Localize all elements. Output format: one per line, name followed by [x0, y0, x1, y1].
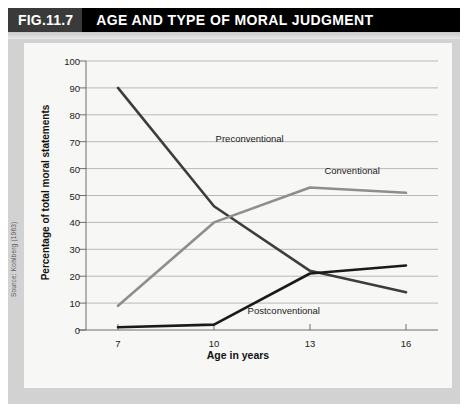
x-tick-label: 13: [290, 338, 330, 349]
figure-number-badge: FIG.11.7: [8, 8, 82, 32]
x-tick-label: 7: [98, 338, 138, 349]
line-chart: Percentage of total moral statements 010…: [24, 43, 452, 388]
header-shadow-divider: [8, 32, 460, 39]
x-axis-title: Age in years: [24, 349, 452, 361]
x-axis-tick-labels: 7101316: [24, 43, 452, 388]
series-label-conventional: Conventional: [324, 165, 379, 176]
chart-panel: Percentage of total moral statements 010…: [24, 43, 452, 388]
series-label-postconventional: Postconventional: [248, 305, 320, 316]
source-attribution: Source: Kohlberg (1963): [10, 197, 17, 297]
figure-container: FIG.11.7 AGE AND TYPE OF MORAL JUDGMENT …: [0, 0, 468, 412]
x-tick-label: 10: [194, 338, 234, 349]
x-tick-label: 16: [386, 338, 426, 349]
figure-header: FIG.11.7 AGE AND TYPE OF MORAL JUDGMENT: [8, 8, 460, 32]
series-label-preconventional: Preconventional: [216, 133, 284, 144]
chart-frame: Source: Kohlberg (1963) Percentage of to…: [8, 39, 460, 404]
figure-title: AGE AND TYPE OF MORAL JUDGMENT: [82, 8, 373, 32]
